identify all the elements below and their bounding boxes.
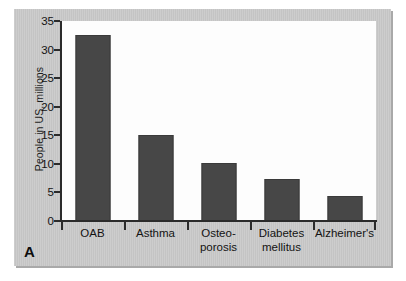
y-tick-mark — [54, 49, 60, 51]
panel-letter: A — [24, 243, 35, 260]
bar[interactable] — [264, 179, 299, 221]
y-tick-mark — [54, 106, 60, 108]
y-tick-mark — [54, 191, 60, 193]
bar-slot — [124, 21, 187, 221]
y-tick-mark — [54, 20, 60, 22]
x-tick-marks — [61, 222, 377, 231]
x-tick-mark — [313, 222, 315, 230]
y-tick-mark — [54, 220, 60, 222]
bar-slot — [61, 21, 124, 221]
bar-slot — [187, 21, 250, 221]
y-tick-mark — [54, 134, 60, 136]
bar[interactable] — [327, 196, 362, 221]
x-tick-mark — [250, 222, 252, 230]
bar[interactable] — [75, 35, 110, 221]
x-category-label-line: mellitus — [250, 240, 313, 254]
bar[interactable] — [138, 135, 173, 221]
x-axis-category-labels: OABAsthmaOsteo-porosisDiabetesmellitusAl… — [61, 226, 376, 270]
y-axis-line — [60, 21, 62, 222]
y-tick-mark — [54, 163, 60, 165]
bar-slot — [250, 21, 313, 221]
bar[interactable] — [201, 163, 236, 221]
x-tick-mark — [374, 222, 376, 230]
x-category-label-line: porosis — [187, 240, 250, 254]
x-tick-mark — [187, 222, 189, 230]
x-tick-mark — [124, 222, 126, 230]
y-tick-mark — [54, 77, 60, 79]
bar-slot — [313, 21, 376, 221]
x-tick-mark — [61, 222, 63, 230]
bar-series — [61, 21, 376, 221]
y-tick-marks — [0, 0, 60, 281]
figure-root: People in US, millions 05101520253035 OA… — [0, 0, 406, 281]
